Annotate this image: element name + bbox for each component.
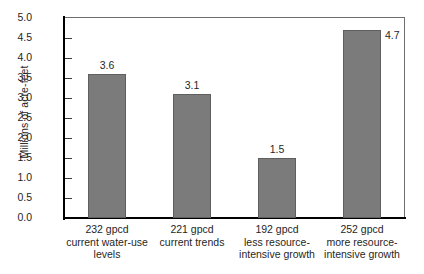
x-axis-category-line: 252 gpcd [310, 223, 414, 236]
x-axis-category-line: levels [55, 248, 159, 261]
y-tick-mark [65, 58, 72, 59]
x-axis-category-line: intensive growth [310, 248, 414, 261]
y-tick-mark [65, 38, 72, 39]
bar-value-label: 3.6 [78, 59, 136, 71]
bar-value-label: 4.7 [385, 29, 400, 41]
y-tick-mark [65, 98, 72, 99]
bar [88, 74, 126, 218]
y-tick-mark [65, 198, 72, 199]
bar [173, 94, 211, 218]
y-tick-label: 3.0 [0, 91, 32, 103]
bar-value-label: 1.5 [248, 143, 306, 155]
y-tick-mark [65, 178, 72, 179]
y-tick-label: 4.0 [0, 51, 32, 63]
y-tick-mark [65, 138, 72, 139]
y-tick-label: 2.5 [0, 111, 32, 123]
x-axis-category-label: 252 gpcdmore resource-intensive growth [310, 223, 414, 261]
x-axis-category-line: more resource- [310, 236, 414, 249]
y-tick-label: 4.5 [0, 31, 32, 43]
bar [343, 30, 381, 218]
y-tick-label: 1.5 [0, 151, 32, 163]
bar-value-label: 3.1 [163, 79, 221, 91]
y-tick-label: 2.0 [0, 131, 32, 143]
y-tick-label: 5.0 [0, 11, 32, 23]
y-tick-label: 3.5 [0, 71, 32, 83]
y-tick-mark [65, 78, 72, 79]
y-tick-label: 0.0 [0, 211, 32, 223]
y-tick-label: 0.5 [0, 191, 32, 203]
y-tick-label: 1.0 [0, 171, 32, 183]
bar [258, 158, 296, 218]
y-tick-mark [65, 118, 72, 119]
y-tick-mark [65, 158, 72, 159]
bar-chart: Millions of acre-feet 0.00.51.01.52.02.5… [0, 0, 424, 274]
